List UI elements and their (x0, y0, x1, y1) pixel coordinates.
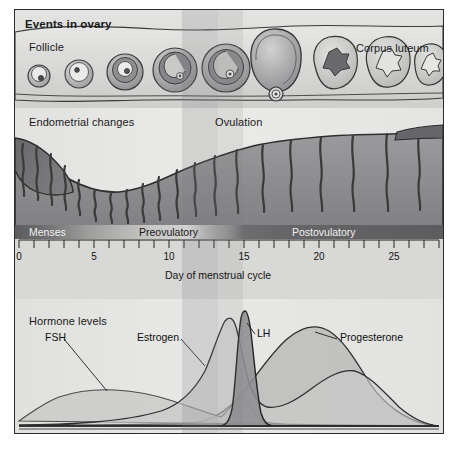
estrogen-label: Estrogen (137, 331, 179, 343)
phase-label-postovulatory: Postovulatory (292, 226, 356, 238)
ovary-stage-early-corpus-luteum (314, 36, 358, 88)
endometrium-section-title: Endometrial changes (29, 116, 134, 128)
ovary-section-title: Events in ovary (25, 18, 112, 30)
axis-tick-label-20: 20 (309, 251, 329, 262)
ovary-stage-secondary-follicle (107, 54, 143, 90)
ovary-stage-primary-follicle (65, 60, 93, 88)
axis-ticks (19, 240, 439, 248)
axis-tick-label-0: 0 (14, 251, 29, 262)
phase-label-preovulatory: Preovulatory (139, 226, 198, 238)
ovulation-label: Ovulation (215, 116, 262, 128)
lh-label: LH (257, 327, 270, 339)
progesterone-label: Progesterone (340, 331, 403, 343)
ovary-section: Events in ovary Follicle Corpus luteum (15, 10, 443, 108)
corpus-luteum-label: Corpus luteum (356, 42, 429, 54)
axis-section: 0 5 10 15 20 25 Day of menstrual cycle (15, 239, 443, 299)
ovary-stage-antral-follicle (153, 48, 197, 92)
follicle-label: Follicle (29, 41, 64, 53)
axis-tick-label-5: 5 (84, 251, 104, 262)
axis-tick-label-15: 15 (234, 251, 254, 262)
endometrium-section: Endometrial changes Ovulation (15, 108, 443, 239)
axis-title: Day of menstrual cycle (165, 269, 271, 281)
ovary-stage-primordial-follicle (28, 65, 50, 87)
hormones-section-title: Hormone levels (29, 315, 107, 327)
hormones-section: Hormone levels FSH Estrogen LH Progester… (15, 299, 443, 433)
menstrual-cycle-figure: Events in ovary Follicle Corpus luteum (0, 0, 458, 453)
figure-panel: Events in ovary Follicle Corpus luteum (14, 9, 444, 434)
axis-tick-label-10: 10 (159, 251, 179, 262)
phase-bar: Menses Preovulatory Postovulatory (15, 225, 443, 239)
phase-label-menses: Menses (29, 226, 66, 238)
ovary-stage-mature-follicle (202, 44, 250, 92)
axis-tick-label-25: 25 (384, 251, 404, 262)
fsh-label: FSH (45, 331, 66, 343)
